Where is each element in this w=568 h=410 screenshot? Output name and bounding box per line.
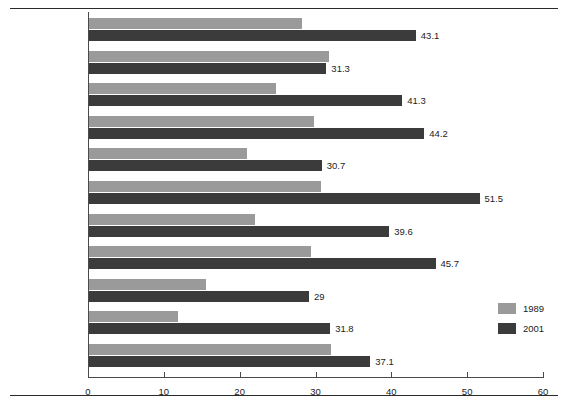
bar-2001: 30.7 [89,160,322,171]
bar-1989 [89,181,321,192]
x-tick [316,372,317,378]
bar-1989 [89,214,255,225]
bar-value-label: 31.8 [335,323,354,334]
bar-row: Saskatchewan44.2 [88,116,543,148]
bar-2001: 31.8 [89,323,330,334]
legend-swatch [498,303,516,314]
bar-row: CANADA43.1 [88,18,543,50]
x-tick [88,372,89,378]
bar-value-label: 31.3 [331,63,350,74]
bar-row: Nova Scotia29 [88,279,543,311]
bar-value-label: 45.7 [441,258,460,269]
bottom-divider-rule [10,395,558,396]
x-tick [467,372,468,378]
bar-row: New Brunswick45.7 [88,246,543,278]
bar-2001: 41.3 [89,95,402,106]
bar-2001: 39.6 [89,226,389,237]
bar-2001: 29 [89,291,309,302]
x-tick [240,372,241,378]
bar-row: Ontario51.5 [88,181,543,213]
bar-2001: 51.5 [89,193,480,204]
bar-value-label: 41.3 [407,95,426,106]
bar-row: Manitoba30.7 [88,148,543,180]
bar-1989 [89,116,314,127]
bar-value-label: 39.6 [394,226,413,237]
bar-1989 [89,246,311,257]
x-tick [164,372,165,378]
legend-label: 1989 [523,300,544,317]
x-tick [543,372,544,378]
x-tick [391,372,392,378]
top-divider-rule [10,8,558,9]
bar-value-label: 30.7 [327,160,346,171]
bar-1989 [89,83,276,94]
bar-2001: 44.2 [89,128,424,139]
bar-value-label: 44.2 [429,128,448,139]
legend-swatch [498,323,516,334]
bar-row: Alberta41.3 [88,83,543,115]
bar-2001: 45.7 [89,258,436,269]
bar-1989 [89,18,302,29]
bar-1989 [89,279,206,290]
bar-row: PEI31.8 [88,311,543,343]
bar-1989 [89,344,331,355]
chart-figure: CANADA43.1BC31.3Alberta41.3Saskatchewan4… [0,0,568,410]
bar-value-label: 29 [314,291,325,302]
bar-2001: 31.3 [89,63,326,74]
bar-2001: 37.1 [89,356,370,367]
bar-value-label: 51.5 [485,193,504,204]
plot-area: CANADA43.1BC31.3Alberta41.3Saskatchewan4… [88,12,543,378]
bar-value-label: 43.1 [421,30,440,41]
bar-1989 [89,148,247,159]
bar-value-label: 37.1 [375,356,394,367]
bar-row: BC31.3 [88,51,543,83]
legend-label: 2001 [523,320,544,337]
bar-1989 [89,311,178,322]
bar-2001: 43.1 [89,30,416,41]
bar-row: Quebec39.6 [88,214,543,246]
bar-1989 [89,51,329,62]
